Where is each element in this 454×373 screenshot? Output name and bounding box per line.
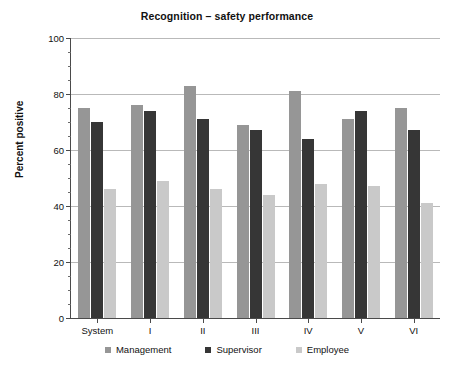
legend-label-management: Management (116, 344, 171, 355)
legend-item-supervisor[interactable]: Supervisor (205, 344, 261, 355)
y-minor-tick-10 (68, 290, 71, 291)
bar-management-system (78, 108, 90, 318)
bar-supervisor-vi (408, 130, 420, 318)
y-minor-tick-75 (68, 108, 71, 109)
x-tick-v (361, 318, 362, 323)
y-tick-label-80: 80 (53, 89, 64, 100)
y-tick-label-100: 100 (48, 33, 64, 44)
bar-management-iii (237, 125, 249, 318)
bar-management-iv (289, 91, 301, 318)
legend-swatch-icon-management (105, 347, 111, 353)
x-tick-system (97, 318, 98, 323)
bar-supervisor-iv (302, 139, 314, 318)
bar-management-v (342, 119, 354, 318)
y-minor-tick-85 (68, 80, 71, 81)
bar-group-i (131, 38, 169, 318)
bar-employee-vi (421, 203, 433, 318)
bar-management-i (131, 105, 143, 318)
x-tick-i (150, 318, 151, 323)
legend-item-management[interactable]: Management (105, 344, 171, 355)
y-tick-60 (66, 150, 71, 151)
chart-legend: ManagementSupervisorEmployee (0, 344, 454, 355)
x-tick-vi (414, 318, 415, 323)
bar-employee-ii (210, 189, 222, 318)
bar-group-ii (184, 38, 222, 318)
legend-item-employee[interactable]: Employee (296, 344, 349, 355)
y-tick-80 (66, 94, 71, 95)
bar-employee-system (104, 189, 116, 318)
legend-swatch-icon-supervisor (205, 347, 211, 353)
plot-area: 020406080100 SystemIIIIIIIVVVI (71, 38, 440, 318)
legend-swatch-icon-employee (296, 347, 302, 353)
y-minor-tick-50 (68, 178, 71, 179)
y-minor-tick-5 (68, 304, 71, 305)
chart-figure: Recognition – safety performance Percent… (0, 0, 454, 373)
y-minor-tick-15 (68, 276, 71, 277)
bar-group-vi (395, 38, 433, 318)
bar-employee-iii (263, 195, 275, 318)
legend-label-employee: Employee (307, 344, 349, 355)
bar-group-iv (289, 38, 327, 318)
x-tick-label-iii: III (252, 325, 260, 336)
y-tick-label-40: 40 (53, 201, 64, 212)
y-tick-40 (66, 206, 71, 207)
y-minor-tick-70 (68, 122, 71, 123)
x-tick-iii (256, 318, 257, 323)
bar-management-ii (184, 86, 196, 318)
x-tick-label-ii: II (200, 325, 205, 336)
bar-supervisor-iii (250, 130, 262, 318)
x-tick-label-iv: IV (304, 325, 313, 336)
y-tick-label-0: 0 (59, 313, 64, 324)
bar-group-v (342, 38, 380, 318)
x-tick-iv (308, 318, 309, 323)
y-tick-label-60: 60 (53, 145, 64, 156)
y-tick-label-20: 20 (53, 257, 64, 268)
bar-group-system (78, 38, 116, 318)
y-minor-tick-55 (68, 164, 71, 165)
y-minor-tick-90 (68, 66, 71, 67)
x-tick-label-system: System (82, 325, 114, 336)
y-tick-20 (66, 262, 71, 263)
x-tick-label-v: V (358, 325, 364, 336)
y-minor-tick-35 (68, 220, 71, 221)
bar-supervisor-ii (197, 119, 209, 318)
chart-title: Recognition – safety performance (0, 10, 454, 22)
y-tick-100 (66, 38, 71, 39)
bar-management-vi (395, 108, 407, 318)
legend-label-supervisor: Supervisor (216, 344, 261, 355)
bar-supervisor-v (355, 111, 367, 318)
bar-employee-iv (315, 184, 327, 318)
y-tick-0 (66, 318, 71, 319)
bar-employee-i (157, 181, 169, 318)
x-tick-label-vi: VI (409, 325, 418, 336)
bar-supervisor-system (91, 122, 103, 318)
y-minor-tick-30 (68, 234, 71, 235)
y-minor-tick-65 (68, 136, 71, 137)
bar-supervisor-i (144, 111, 156, 318)
y-axis-title: Percent positive (14, 101, 25, 178)
y-minor-tick-45 (68, 192, 71, 193)
bar-group-iii (237, 38, 275, 318)
y-minor-tick-25 (68, 248, 71, 249)
x-tick-ii (203, 318, 204, 323)
bar-employee-v (368, 186, 380, 318)
y-minor-tick-95 (68, 52, 71, 53)
x-tick-label-i: I (149, 325, 152, 336)
